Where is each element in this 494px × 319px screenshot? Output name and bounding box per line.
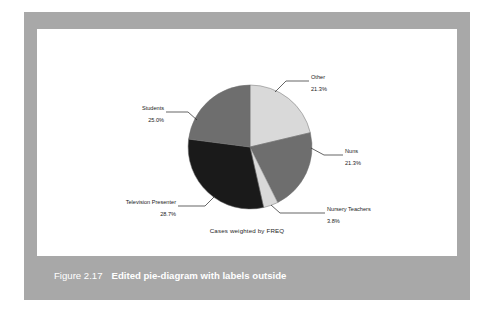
slice-value-nursery-teachers: 3.8%: [327, 218, 340, 224]
figure-title: Edited pie-diagram with labels outside: [112, 270, 287, 281]
slice-label-other: Other: [311, 74, 325, 80]
slice-label-television-presenter: Television Presenter: [126, 199, 177, 205]
pie-chart: Other 21.3% Nuns 21.3% Nursery Teachers …: [37, 29, 457, 256]
leader-line-other: [275, 81, 309, 92]
slice-value-television-presenter: 28.7%: [160, 211, 176, 217]
leader-line-nursery-teachers: [271, 205, 325, 213]
slice-label-nursery-teachers: Nursery Teachers: [327, 206, 371, 212]
figure-caption: Figure 2.17 Edited pie-diagram with labe…: [54, 270, 286, 281]
pie-chart-svg: Other 21.3% Nuns 21.3% Nursery Teachers …: [37, 29, 457, 256]
figure-number: Figure 2.17: [54, 270, 103, 281]
slice-value-other: 21.3%: [311, 86, 327, 92]
leader-line-nuns: [311, 148, 343, 155]
leader-line-students: [166, 112, 197, 120]
figure-page: Other 21.3% Nuns 21.3% Nursery Teachers …: [24, 12, 470, 300]
slice-label-students: Students: [142, 105, 164, 111]
slice-value-nuns: 21.3%: [345, 160, 361, 166]
chart-subtitle: Cases weighted by FREQ: [37, 227, 457, 234]
slice-value-students: 25.0%: [148, 117, 164, 123]
leader-line-television-presenter: [178, 196, 215, 206]
pie-slices: [188, 85, 312, 209]
pie-slice-students[interactable]: [189, 85, 250, 147]
slice-label-nuns: Nuns: [345, 148, 358, 154]
chart-panel: Other 21.3% Nuns 21.3% Nursery Teachers …: [37, 29, 457, 256]
